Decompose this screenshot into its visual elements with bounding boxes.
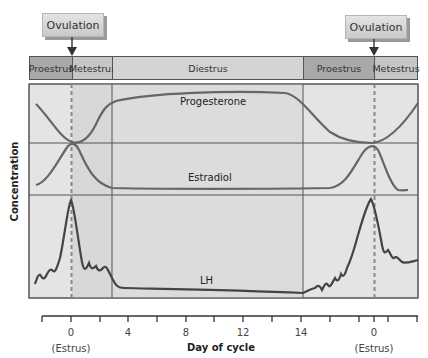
x-tick-label: 0 <box>68 327 74 338</box>
estrus-label: (Estrus) <box>355 343 394 354</box>
x-tick-label: 0 <box>371 327 377 338</box>
estrus-label: (Estrus) <box>52 343 91 354</box>
x-tick-label: 4 <box>125 327 131 338</box>
x-axis <box>0 0 428 358</box>
x-tick-label: 14 <box>295 327 308 338</box>
x-tick-label: 12 <box>237 327 250 338</box>
x-tick-label: 8 <box>183 327 189 338</box>
x-axis-label: Day of cycle <box>187 342 255 353</box>
